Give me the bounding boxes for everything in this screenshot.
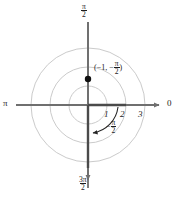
point-label-close-paren: ) (120, 64, 123, 72)
radial-tick-label-3: 3 (138, 110, 143, 119)
fraction-3pi-over-2: 3π 2 (78, 176, 88, 192)
plotted-point-marker (85, 76, 91, 82)
angle-sweep-label: − π 2 (106, 119, 116, 135)
axis-label-zero: 0 (167, 99, 172, 108)
axis-label-pi-over-2: π 2 (81, 3, 87, 19)
point-coordinate-label: ( −1, − π 2 ) (94, 60, 122, 76)
fraction-denominator: 2 (111, 126, 117, 135)
fraction-denominator: 2 (80, 183, 86, 192)
fraction-pi-over-2: π 2 (111, 119, 117, 135)
point-label-radius: −1, (97, 64, 108, 72)
fraction-denominator: 2 (114, 67, 120, 76)
polar-grid-svg (0, 0, 177, 198)
plotted-point-group (85, 76, 91, 82)
fraction-numerator: π (81, 3, 87, 11)
angle-sweep-label-row: − π 2 (106, 119, 116, 135)
radial-tick-label-2: 2 (120, 110, 125, 119)
point-label-row: ( −1, − π 2 ) (94, 60, 122, 76)
fraction-numerator: π (111, 119, 117, 127)
fraction-pi-over-2: π 2 (81, 3, 87, 19)
radial-tick-label-1: 1 (104, 110, 109, 119)
fraction-pi-over-2: π 2 (114, 60, 120, 76)
fraction-denominator: 2 (81, 10, 87, 19)
axis-label-3pi-over-2: 3π 2 (78, 176, 88, 192)
axis-label-pi: π (3, 99, 8, 108)
fraction-numerator: π (114, 60, 120, 68)
fraction-numerator: 3π (78, 176, 88, 184)
polar-plot-figure: π 2 3π 2 π 0 1 2 3 ( −1, − π 2 ) (0, 0, 177, 198)
